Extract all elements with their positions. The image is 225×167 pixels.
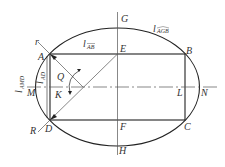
svg-text:AGB: AGB (156, 28, 169, 34)
svg-text:AB: AB (86, 44, 95, 50)
label-r-capital: R (29, 125, 36, 136)
label-f: F (119, 121, 127, 132)
label-e: E (119, 43, 126, 54)
svg-text:AMD: AMD (19, 75, 25, 90)
label-m: M (26, 87, 36, 98)
label-g: G (121, 13, 128, 24)
diagram-canvas: G H E F A B C D K L M N Q r R l AGB l AB… (0, 0, 225, 167)
label-l: L (176, 87, 183, 98)
angle-arc-q (69, 70, 80, 93)
label-r-small: r (35, 36, 39, 47)
angle-arrow-head-2 (68, 91, 72, 95)
svg-text:l: l (34, 81, 45, 84)
length-label-seg-ad: l AD (34, 71, 46, 84)
label-k: K (54, 89, 63, 100)
svg-text:AD: AD (40, 71, 46, 81)
svg-text:l: l (153, 23, 156, 34)
arrow-at-d (50, 114, 57, 120)
length-label-seg-ab: l AB (83, 38, 95, 50)
label-d: D (44, 123, 53, 134)
label-h: H (118, 145, 127, 156)
label-b: B (186, 45, 192, 56)
label-q: Q (57, 71, 65, 82)
length-label-arc-amd: l AMD (13, 75, 25, 93)
label-n: N (200, 87, 209, 98)
length-label-arc-agb: l AGB (153, 23, 169, 34)
label-c: C (184, 121, 191, 132)
label-a: A (37, 51, 45, 62)
arrow-at-a (50, 54, 57, 60)
svg-text:l: l (83, 38, 86, 49)
svg-text:l: l (13, 90, 24, 93)
